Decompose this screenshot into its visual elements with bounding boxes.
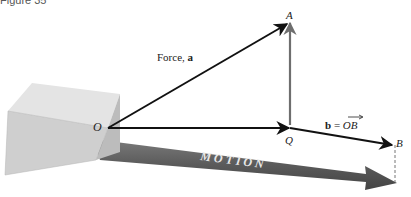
b-eq-equals: = [331, 119, 343, 131]
label-q: Q [285, 134, 293, 146]
svg-text:b = OB: b = OB [325, 119, 358, 131]
label-o: O [93, 120, 102, 134]
label-b: B [396, 137, 403, 149]
b-eq-ob: OB [343, 119, 358, 131]
force-vector-a [108, 24, 287, 128]
b-equation: b = OB [325, 115, 363, 131]
vector-diagram: MOTION O A Q B Force, a b = OB [0, 0, 411, 197]
force-label-vec: a [188, 51, 194, 63]
box [5, 83, 120, 175]
motion-arrow: MOTION [97, 140, 397, 190]
force-label-text: Force, [157, 51, 188, 63]
force-label: Force, a [157, 51, 194, 63]
label-a: A [285, 9, 293, 21]
